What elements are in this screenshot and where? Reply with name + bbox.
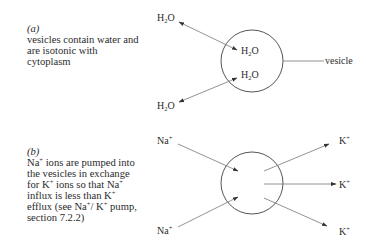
vesicle-circle-a [221, 30, 283, 92]
water-label-inner-bottom: H2O [241, 69, 259, 80]
panel-tag-a: (a) [27, 23, 138, 34]
sodium-label-bottom: Na+ [157, 225, 172, 236]
caption-b-line: for K+ ions so that Na+ [27, 179, 137, 190]
vesicle-label: vesicle [325, 55, 353, 66]
caption-b-line: efflux (see Na+/ K+ pump, [27, 201, 137, 212]
potassium-label-bottom: K+ [339, 226, 350, 237]
caption-a: (a) vesicles contain water and are isoto… [27, 23, 138, 67]
k-arrow-bottom [264, 198, 327, 226]
panel-tag-b: (b) [27, 146, 137, 157]
vesicle-circle-b [221, 152, 283, 214]
water-arrow-bottom [179, 78, 237, 102]
potassium-label-middle: K+ [339, 179, 350, 190]
caption-a-line: are isotonic with [27, 45, 138, 56]
caption-b-line: influx is less than K+ [27, 190, 137, 201]
sodium-label-top: Na+ [157, 135, 172, 146]
na-arrow-top [178, 144, 238, 171]
water-label-outer-bottom: H2O [157, 100, 175, 111]
vesicle-diagram: (a) vesicles contain water and are isoto… [0, 0, 366, 250]
water-arrow-top [179, 22, 237, 50]
potassium-label-top: K+ [339, 135, 350, 146]
caption-a-line: vesicles contain water and [27, 34, 138, 45]
caption-b-line: Na+ ions are pumped into [27, 157, 137, 168]
caption-a-line: cytoplasm [27, 56, 138, 67]
water-label-outer-top: H2O [157, 12, 175, 23]
na-arrow-bottom [178, 197, 238, 227]
k-arrow-top [264, 144, 329, 171]
caption-b-line: section 7.2.2) [27, 212, 137, 223]
caption-b: (b) Na+ ions are pumped into the vesicle… [27, 146, 137, 223]
water-label-inner-top: H2O [241, 45, 259, 56]
